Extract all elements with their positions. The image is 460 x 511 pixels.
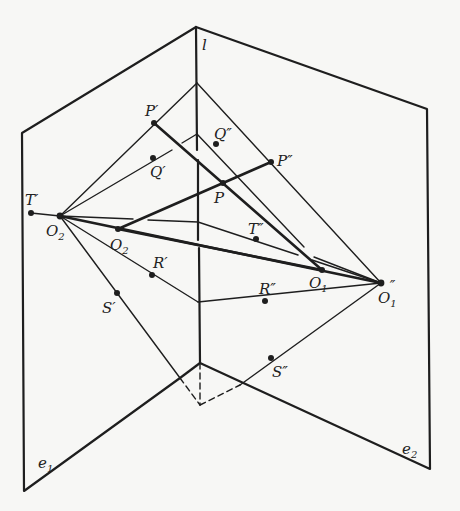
label-T-doubleprime: T″ <box>248 220 264 238</box>
label-P: P <box>213 189 225 207</box>
hidden-edges <box>180 363 240 405</box>
point-O2 <box>115 226 121 232</box>
point-T-prime <box>28 210 34 216</box>
label-Q-prime: Q′ <box>150 163 166 181</box>
points <box>28 120 384 361</box>
point-P <box>220 180 226 186</box>
label-R-doubleprime: R″ <box>258 280 276 298</box>
label-S-doubleprime: S″ <box>272 363 288 381</box>
label-S-prime: S′ <box>102 299 116 317</box>
label-e1: e1 <box>38 454 53 474</box>
point-S-doubleprime <box>268 355 274 361</box>
axis-l-top <box>196 27 197 150</box>
label-O1: O1 <box>309 274 328 294</box>
label-l: l <box>202 36 207 54</box>
label-e2: e2 <box>402 440 417 460</box>
axis-l-low <box>199 248 200 363</box>
point-R-doubleprime <box>262 298 268 304</box>
plane-e1-outline <box>22 27 196 491</box>
point-O1-doubleprime <box>378 280 385 287</box>
point-R-prime <box>149 272 155 278</box>
label-P-doubleprime: P″ <box>276 152 293 170</box>
two-planes-projection-diagram: l P′ Q′ Q″ P″ P T′ O2′ O2 T″ O1 O1″ R′ R… <box>0 0 460 511</box>
point-S-prime <box>114 290 120 296</box>
point-O1 <box>319 267 325 273</box>
plane-e1-lower-edge <box>180 363 200 378</box>
label-O2: O2 <box>110 236 129 256</box>
label-R-prime: R′ <box>152 254 168 272</box>
point-P-prime <box>151 120 157 126</box>
label-T-prime: T′ <box>25 191 39 209</box>
point-P-doubleprime <box>268 159 274 165</box>
label-Q-doubleprime: Q″ <box>214 125 232 143</box>
plane-e2-outline <box>196 27 430 469</box>
point-Q-prime <box>150 155 156 161</box>
label-P-prime: P′ <box>144 102 159 120</box>
